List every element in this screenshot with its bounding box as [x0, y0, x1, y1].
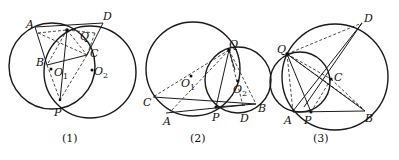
label-c: C — [334, 71, 343, 84]
label-o1: O1 — [54, 66, 68, 81]
dash-aq — [38, 30, 67, 33]
label-q: Q — [80, 30, 89, 43]
label-o2: O2 — [94, 65, 108, 80]
label-c: C — [90, 47, 99, 60]
point-o1 — [50, 68, 53, 71]
point-p — [214, 105, 217, 108]
label-q: Q — [277, 43, 286, 56]
line-pd — [304, 23, 362, 107]
label-a: A — [162, 115, 171, 128]
label-p: P — [211, 111, 220, 124]
label-d: D — [102, 10, 112, 23]
label-b: B — [35, 56, 44, 69]
dash-qc — [287, 54, 331, 79]
caption-3: (3) — [313, 132, 329, 145]
label-o2: O2 — [233, 83, 247, 98]
label-d: D — [363, 12, 373, 25]
caption-1: (1) — [62, 132, 78, 145]
point-q — [65, 28, 69, 32]
line-qp — [216, 50, 229, 107]
label-c: C — [143, 96, 152, 109]
line-bc — [47, 55, 87, 65]
label-b: B — [364, 112, 373, 125]
label-p: P — [303, 114, 312, 127]
figure-2: Q O1 O2 C A P D B (2) — [143, 22, 271, 145]
line-ad — [293, 23, 362, 111]
label-b: B — [257, 102, 266, 115]
point-c — [329, 77, 332, 80]
dash-qa — [287, 54, 293, 112]
figure-3: D Q C A P B (3) — [270, 12, 388, 145]
point-p — [59, 99, 62, 102]
label-p: P — [53, 106, 62, 119]
figure-1: A D Q B C O1 O2 P (1) — [9, 10, 136, 145]
label-d: D — [239, 112, 249, 125]
line-cb — [153, 97, 256, 104]
label-q: Q — [229, 38, 238, 51]
label-a: A — [25, 18, 34, 31]
label-a: A — [283, 114, 292, 127]
caption-2: (2) — [190, 132, 206, 145]
dash-qa — [170, 50, 229, 112]
label-o1: O1 — [181, 77, 195, 92]
geometry-diagram: A D Q B C O1 O2 P (1) Q O1 O2 C A P — [0, 0, 399, 160]
